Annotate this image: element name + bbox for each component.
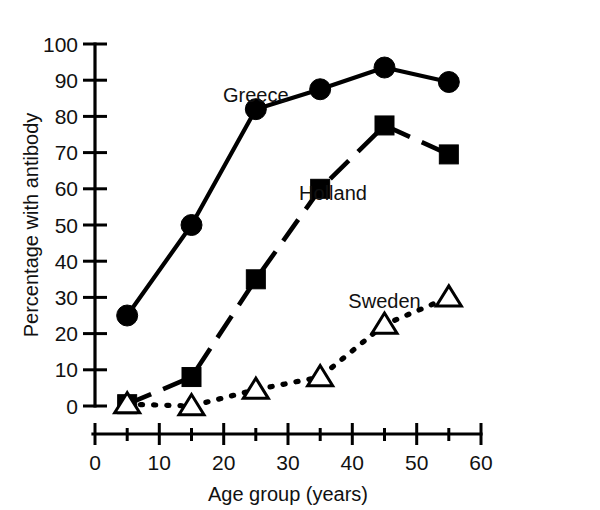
series-line-holland	[127, 125, 449, 404]
chart-figure: 100 90 80 70 60 50 40 30 20 10 0	[0, 0, 600, 510]
marker-open-triangle	[243, 378, 268, 398]
y-tick-label: 70	[55, 141, 78, 164]
y-axis-tick-labels: 100 90 80 70 60 50 40 30 20 10 0	[43, 33, 78, 418]
y-tick-label: 0	[66, 395, 78, 418]
data-series-layer	[115, 57, 462, 415]
marker-open-triangle	[308, 366, 333, 386]
y-tick-label: 50	[55, 214, 78, 237]
marker-filled-circle	[438, 72, 459, 93]
marker-filled-circle	[374, 57, 395, 78]
y-tick-label: 10	[55, 358, 78, 381]
line-chart: 100 90 80 70 60 50 40 30 20 10 0	[0, 0, 600, 510]
marker-filled-square	[439, 145, 458, 164]
y-tick-label: 100	[43, 33, 78, 56]
marker-filled-circle	[181, 215, 202, 236]
y-tick-label: 80	[55, 105, 78, 128]
x-tick-label: 50	[405, 451, 428, 474]
marker-filled-square	[375, 116, 394, 135]
series-holland	[118, 116, 459, 414]
marker-filled-circle	[117, 305, 138, 326]
x-axis-title: Age group (years)	[208, 483, 368, 505]
y-tick-label: 90	[55, 69, 78, 92]
marker-filled-square	[246, 270, 265, 289]
series-line-sweden	[127, 297, 449, 406]
x-tick-label: 30	[276, 451, 299, 474]
series-label-holland: Holland	[299, 182, 367, 204]
marker-filled-square	[182, 368, 201, 387]
series-label-sweden: Sweden	[348, 290, 420, 312]
y-tick-label: 30	[55, 286, 78, 309]
y-tick-label: 20	[55, 322, 78, 345]
x-tick-label: 60	[469, 451, 492, 474]
x-tick-label: 10	[148, 451, 171, 474]
marker-filled-circle	[310, 79, 331, 100]
x-tick-label: 20	[212, 451, 235, 474]
series-label-greece: Greece	[223, 84, 289, 106]
y-tick-label: 60	[55, 177, 78, 200]
x-tick-label: 40	[341, 451, 364, 474]
x-axis-tick-labels: 0 10 20 30 40 50 60	[89, 451, 493, 474]
x-tick-label: 0	[89, 451, 101, 474]
y-tick-label: 40	[55, 250, 78, 273]
marker-open-triangle	[372, 313, 397, 333]
y-axis-title: Percentage with antibody	[20, 113, 42, 338]
marker-open-triangle	[436, 286, 461, 306]
